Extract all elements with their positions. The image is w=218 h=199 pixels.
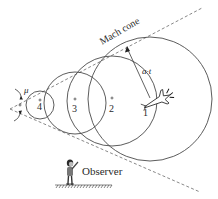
radius-arrowhead-icon [125,46,130,53]
center-plus-icon-2 [111,97,114,100]
angle-mu-label: μ [24,86,29,95]
wavefront-circle-1 [88,37,212,161]
wavefront-label-1: 1 [143,108,148,118]
ground-hatch [55,185,112,188]
wavefront-label-3: 3 [72,104,77,114]
wavefront-label-2: 2 [109,104,114,114]
mach-cone-diagram: Mach cone μ a·t 1 2 3 4 Observer [0,0,218,199]
mach-cone-upper-line [10,8,202,109]
angle-arc-lower [14,112,20,121]
center-marker-icons [19,97,114,107]
angle-arrow-upper-icon [20,96,24,100]
observer-figure-icon [67,160,79,185]
observer-label: Observer [82,166,122,177]
mach-cone-lower-line [10,109,200,192]
center-plus-icon-apex [19,104,22,107]
wavefront-label-4: 4 [37,102,42,112]
center-plus-icon-3 [74,98,77,101]
angle-arc-upper [15,89,21,99]
radius-at-label: a·t [142,67,151,76]
